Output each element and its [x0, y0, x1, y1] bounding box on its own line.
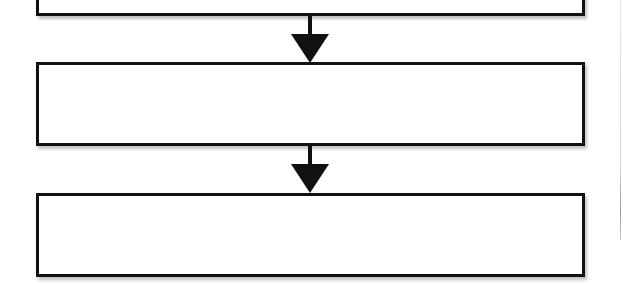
flow-box-2	[36, 62, 585, 146]
page-edge-divider	[620, 0, 621, 240]
down-arrow-icon	[289, 144, 331, 194]
down-arrow-icon	[289, 14, 331, 64]
flow-box-3	[36, 193, 585, 277]
